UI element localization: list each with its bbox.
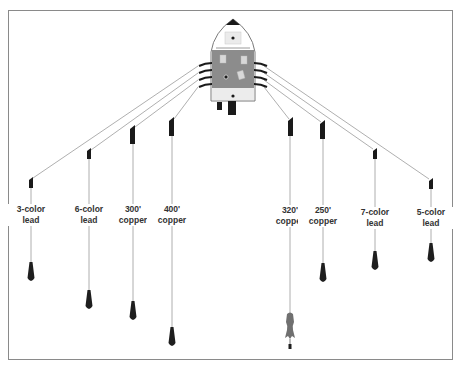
label-400-copper: 400' copper: [147, 204, 197, 226]
weight-6-color: [86, 290, 93, 309]
rod-holder-icon: [199, 84, 212, 87]
label-line2: lead: [406, 218, 456, 229]
board-marker-300-copper: [130, 125, 135, 144]
rod-holder-icon: [199, 70, 212, 73]
fish-weight-320-copper: [285, 313, 295, 350]
label-line1: 6-color: [64, 204, 114, 215]
kicker-motor-icon: [217, 102, 222, 110]
rod-holder-icon: [199, 77, 212, 80]
tow-line-250-copper: [264, 80, 321, 122]
seat-port-icon: [220, 55, 226, 63]
label-line1: 250': [298, 205, 348, 216]
label-line2: lead: [6, 215, 56, 226]
bow-cleat-icon: [231, 36, 234, 39]
lure-icon: [289, 344, 292, 349]
console-icon: [224, 75, 228, 79]
label-line1: 7-color: [350, 207, 400, 218]
main-motor-icon: [228, 101, 236, 115]
rod-holders-port: [199, 63, 212, 87]
weight-300-copper: [130, 301, 137, 320]
planer-boards: [29, 117, 433, 189]
rod-holder-icon: [254, 63, 267, 66]
stern-deck: [212, 88, 254, 100]
boat: [199, 19, 267, 115]
cockpit-deck: [212, 50, 254, 88]
rod-holder-icon: [254, 77, 267, 80]
rod-holder-icon: [199, 63, 212, 66]
label-7-color-lead: 7-color lead: [350, 207, 400, 229]
rod-holder-icon: [254, 84, 267, 87]
label-line1: 400': [147, 204, 197, 215]
label-line1: 3-color: [6, 204, 56, 215]
weight-5-color: [428, 243, 435, 262]
board-marker-250-copper: [320, 120, 325, 139]
label-3-color-lead: 3-color lead: [6, 204, 56, 226]
tow-line-400-copper: [174, 87, 198, 119]
weight-7-color: [372, 251, 379, 270]
weights: [28, 243, 435, 346]
label-6-color-lead: 6-color lead: [64, 204, 114, 226]
board-marker-3-color: [29, 177, 33, 188]
tow-line-7-color: [264, 73, 373, 149]
tow-line-320-copper: [264, 87, 289, 119]
label-250-copper: 250' copper: [298, 205, 348, 227]
board-marker-400-copper: [169, 117, 174, 136]
label-line2: copper: [147, 215, 197, 226]
label-5-color-lead: 5-color lead: [406, 207, 456, 229]
board-marker-6-color: [87, 148, 91, 159]
label-line1: 5-color: [406, 207, 456, 218]
trolling-spread-diagram: [0, 0, 460, 367]
stern-cleat-icon: [231, 94, 234, 97]
weight-400-copper: [169, 327, 176, 346]
board-marker-5-color: [429, 178, 433, 189]
board-marker-320-copper: [288, 117, 293, 136]
board-marker-7-color: [373, 148, 377, 159]
label-line2: lead: [350, 218, 400, 229]
label-line2: lead: [64, 215, 114, 226]
weight-250-copper: [320, 263, 327, 282]
weight-3-color: [28, 262, 35, 281]
bow-tip-icon: [226, 19, 240, 25]
fish-body-icon: [285, 313, 295, 340]
rod-holder-icon: [254, 70, 267, 73]
tow-line-6-color: [91, 73, 198, 150]
label-line2: copper: [298, 216, 348, 227]
seat-starboard-icon: [241, 56, 247, 64]
